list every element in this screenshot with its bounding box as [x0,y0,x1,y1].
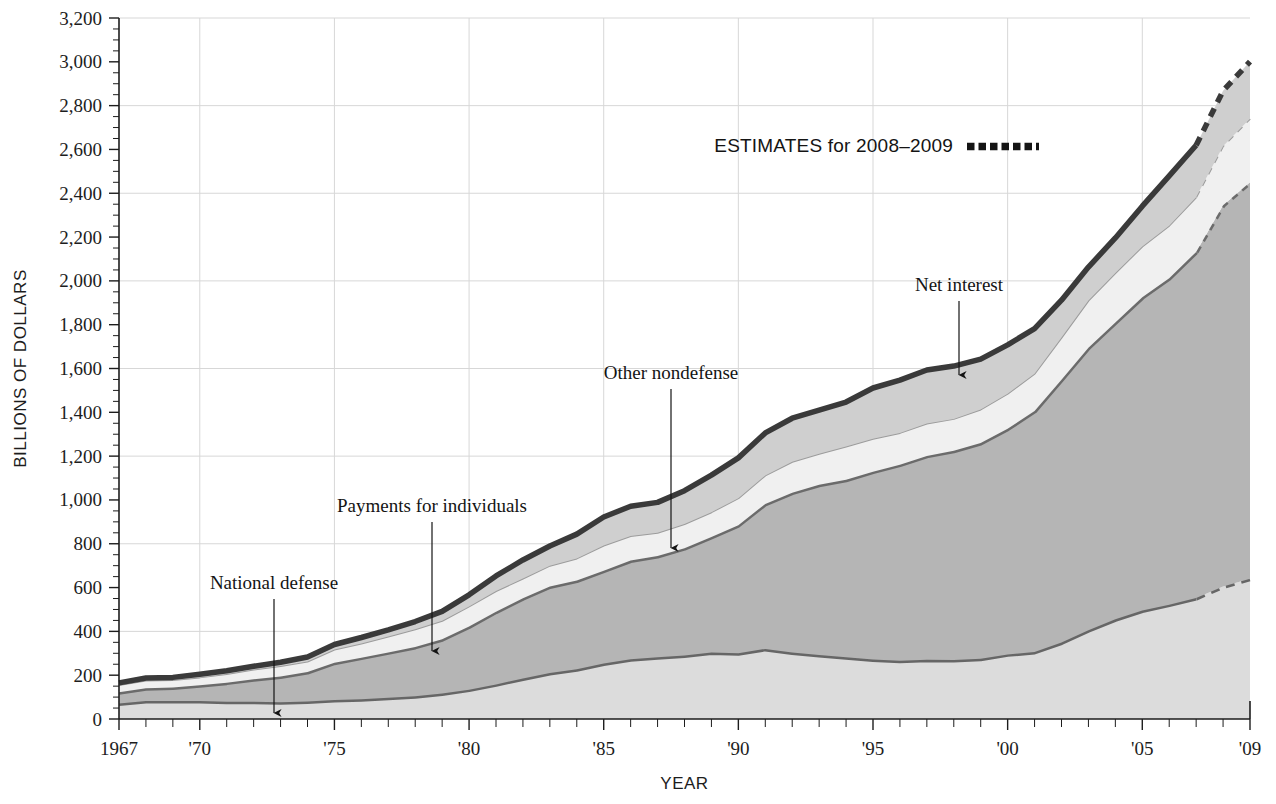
y-tick-label: 200 [74,665,103,686]
y-tick-label: 2,600 [59,139,102,160]
y-tick-label: 600 [74,577,103,598]
legend: ESTIMATES for 2008–2009 [714,135,1039,156]
y-tick-label: 1,200 [59,446,102,467]
y-tick-label: 3,200 [59,8,102,29]
y-tick-label: 400 [74,621,103,642]
y-tick-label: 2,400 [59,183,102,204]
y-tick-label: 1,800 [59,314,102,335]
legend-label: ESTIMATES for 2008–2009 [714,135,953,156]
y-tick-label: 1,400 [59,402,102,423]
x-tick-label: '80 [458,738,480,759]
area-bands [119,62,1250,719]
x-tick-label: '05 [1131,738,1153,759]
y-tick-label: 2,200 [59,227,102,248]
x-tick-label: '85 [592,738,614,759]
chart-canvas: 02004006008001,0001,2001,4001,6001,8002,… [0,0,1276,804]
x-tick-label: '95 [862,738,884,759]
y-tick-label: 2,800 [59,95,102,116]
x-tick-label: '09 [1239,738,1261,759]
annotation-label-payments-for-individuals: Payments for individuals [337,495,527,516]
y-tick-label: 800 [74,533,103,554]
y-tick-label: 2,000 [59,270,102,291]
x-tick-label: '70 [189,738,211,759]
y-tick-labels: 02004006008001,0001,2001,4001,6001,8002,… [59,8,102,730]
y-tick-label: 1,000 [59,489,102,510]
y-tick-label: 1,600 [59,358,102,379]
x-tick-label: '75 [323,738,345,759]
annotation-label-net-interest: Net interest [915,274,1004,295]
x-tick-label: 1967 [100,738,138,759]
y-tick-label: 3,000 [59,51,102,72]
x-tick-label: '00 [996,738,1018,759]
stacked-area-chart: 02004006008001,0001,2001,4001,6001,8002,… [0,0,1276,804]
area-band-payments-for-individuals [119,182,1250,703]
y-axis-title: BILLIONS OF DOLLARS [11,269,30,467]
annotation-label-other-nondefense: Other nondefense [604,362,739,383]
x-tick-label: '90 [727,738,749,759]
x-axis-title: YEAR [660,774,708,793]
y-tick-label: 0 [93,709,103,730]
x-tick-labels: 1967'70'75'80'85'90'95'00'05'09 [100,738,1261,759]
annotation-label-national-defense: National defense [210,572,338,593]
